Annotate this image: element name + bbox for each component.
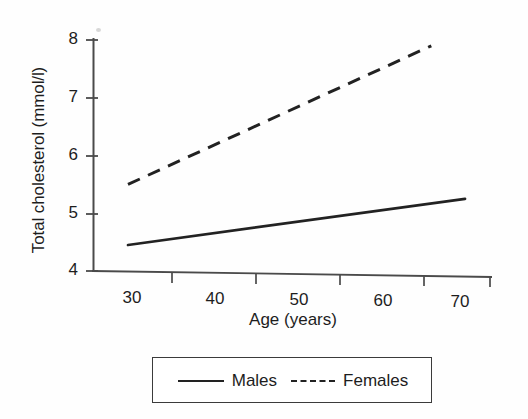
legend-label-females: Females bbox=[343, 371, 408, 391]
x-tick-label-60: 60 bbox=[363, 291, 403, 311]
x-tick-label-50: 50 bbox=[279, 290, 319, 310]
legend-label-males: Males bbox=[232, 371, 277, 391]
y-tick-label-5: 5 bbox=[52, 203, 78, 223]
legend-line-dashed-icon bbox=[291, 380, 335, 382]
legend-entry-males: Males bbox=[178, 371, 277, 391]
legend-line-solid-icon bbox=[178, 380, 224, 382]
scan-artifact-speck bbox=[96, 28, 101, 32]
series-line-males bbox=[128, 199, 465, 245]
chart-legend: Males Females bbox=[152, 357, 432, 403]
legend-entry-females: Females bbox=[291, 371, 408, 391]
y-tick-label-6: 6 bbox=[52, 145, 78, 165]
y-tick-label-8: 8 bbox=[52, 29, 78, 49]
x-axis-line bbox=[92, 271, 492, 277]
x-axis-title: Age (years) bbox=[93, 310, 493, 330]
x-tick-label-40: 40 bbox=[195, 289, 235, 309]
x-tick-label-70: 70 bbox=[440, 292, 480, 312]
y-tick-label-7: 7 bbox=[52, 87, 78, 107]
y-axis-title: Total cholesterol (mmol/l) bbox=[29, 35, 49, 285]
y-tick-label-4: 4 bbox=[52, 260, 78, 280]
series-line-females bbox=[128, 46, 431, 185]
x-tick-label-30: 30 bbox=[112, 288, 152, 308]
chart-figure: Total cholesterol (mmol/l) 8 7 6 5 4 30 … bbox=[0, 0, 528, 419]
